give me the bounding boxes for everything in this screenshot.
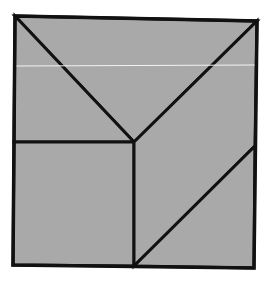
bottom-left-square: [13, 142, 134, 266]
dissection-diagram: [0, 0, 269, 292]
pieces-group: [13, 16, 257, 268]
